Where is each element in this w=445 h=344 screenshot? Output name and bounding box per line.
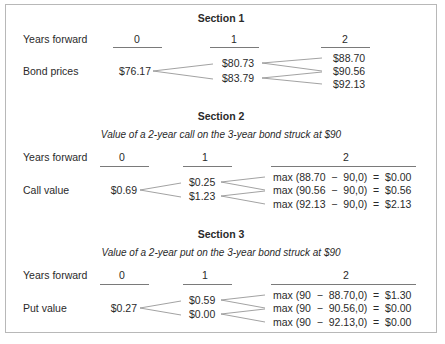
node-t2-dd: max (90 − 92.13,0) = $0.00 <box>273 316 411 328</box>
years-forward-label: Years forward <box>23 269 87 281</box>
year-2-underline <box>321 47 370 48</box>
node-t1-up: $0.59 <box>189 294 215 306</box>
years-forward-label: Years forward <box>23 151 87 163</box>
year-2-underline <box>271 166 416 167</box>
node-t1-up: $0.25 <box>189 176 215 188</box>
node-t2-ud: max (90.56 − 90,0) = $0.56 <box>273 184 411 196</box>
row-label-bond-prices: Bond prices <box>23 65 78 77</box>
year-header-1: 1 <box>202 151 208 163</box>
year-0-underline <box>100 166 149 167</box>
node-t2-ud: max (90 − 90.56,0) = $0.00 <box>273 302 411 314</box>
year-1-underline <box>210 47 259 48</box>
node-t0: $0.69 <box>111 184 137 196</box>
year-0-underline <box>100 284 149 285</box>
year-header-2: 2 <box>343 151 349 163</box>
row-label-call-value: Call value <box>23 184 69 196</box>
node-t1-down: $1.23 <box>189 190 215 202</box>
year-header-0: 0 <box>119 269 125 281</box>
section-2-subtitle: Value of a 2-year call on the 3-year bon… <box>101 129 341 141</box>
year-header-2: 2 <box>343 269 349 281</box>
year-header-1: 1 <box>231 33 237 45</box>
year-header-1: 1 <box>202 269 208 281</box>
node-t2-uu: max (88.70 − 90,0) = $0.00 <box>273 171 411 183</box>
node-t2-ud: $90.56 <box>333 65 365 77</box>
node-t2-uu: $88.70 <box>333 52 365 64</box>
node-t2-dd: max (92.13 − 90,0) = $2.13 <box>273 198 411 210</box>
year-header-0: 0 <box>119 151 125 163</box>
section-3-title: Section 3 <box>198 228 245 240</box>
section-2-title: Section 2 <box>198 110 245 122</box>
node-t2-uu: max (90 − 88.70,0) = $1.30 <box>273 289 411 301</box>
year-1-underline <box>183 284 232 285</box>
year-2-underline <box>271 284 416 285</box>
year-0-underline <box>113 47 162 48</box>
node-t0: $0.27 <box>111 302 137 314</box>
node-t1-up: $80.73 <box>222 57 254 69</box>
section-3-subtitle: Value of a 2-year put on the 3-year bond… <box>101 247 340 259</box>
year-1-underline <box>183 166 232 167</box>
row-label-put-value: Put value <box>23 302 67 314</box>
year-header-2: 2 <box>342 33 348 45</box>
node-t1-down: $83.79 <box>222 72 254 84</box>
section-1-title: Section 1 <box>198 12 245 24</box>
node-t2-dd: $92.13 <box>333 78 365 90</box>
node-t0: $76.17 <box>119 65 151 77</box>
year-header-0: 0 <box>134 33 140 45</box>
years-forward-label: Years forward <box>23 33 87 45</box>
node-t1-down: $0.00 <box>189 308 215 320</box>
